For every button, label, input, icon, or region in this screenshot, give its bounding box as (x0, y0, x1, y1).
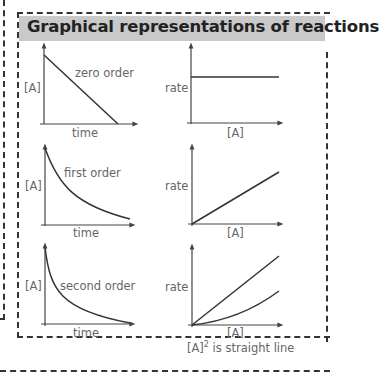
graph-first-order-rate (188, 146, 281, 226)
curve-label-first-order: first order (64, 166, 121, 180)
graph-second-order-rate (188, 246, 281, 327)
data-line (192, 172, 279, 224)
graph-first-order-conc (41, 146, 133, 226)
x-label-conc-2: [A] (227, 226, 244, 240)
second-order-note: [A]2 is straight line (187, 340, 294, 355)
y-label-rate-3: rate (165, 280, 188, 294)
graph-zero-order-rate (187, 45, 281, 124)
data-curve (45, 148, 130, 219)
curve-label-second-order: second order (60, 279, 135, 293)
x-label-time-2: time (73, 226, 99, 240)
y-label-conc-3: [A] (25, 279, 42, 293)
x-label-conc-1: [A] (227, 126, 244, 140)
data-curve-parabola (192, 291, 279, 325)
x-label-time-3: time (73, 326, 99, 340)
note-suffix: is straight line (209, 341, 294, 355)
note-prefix: [A] (187, 341, 204, 355)
x-label-conc-3: [A] (227, 326, 244, 340)
curve-label-zero-order: zero order (75, 66, 134, 80)
y-label-rate-2: rate (165, 179, 188, 193)
x-label-time-1: time (72, 126, 98, 140)
graph-zero-order-conc (40, 45, 136, 124)
y-label-rate-1: rate (165, 81, 188, 95)
y-label-conc-2: [A] (25, 179, 42, 193)
y-label-conc-1: [A] (24, 81, 41, 95)
